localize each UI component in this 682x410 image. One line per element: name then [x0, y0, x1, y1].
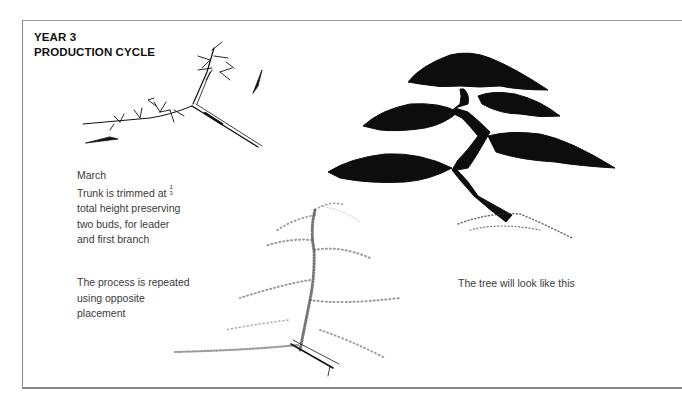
fraction-one-third: 13 [169, 184, 172, 196]
caption-line-trim: Trunk is trimmed at 13 [77, 184, 180, 202]
caption-line-buds: two buds, for leader [77, 217, 180, 233]
caption-line-height: total height preserving [77, 201, 180, 217]
caption-repeat-line1: The process is repeated [77, 275, 190, 291]
march-caption: March Trunk is trimmed at 13 total heigh… [77, 168, 180, 248]
caption-repeat-line2: using opposite [77, 291, 190, 307]
stippled-tree-illustration [175, 203, 400, 376]
mature-bonsai-illustration [328, 53, 615, 222]
result-caption: The tree will look like this [458, 276, 575, 292]
caption-line-branch: and first branch [77, 232, 180, 248]
repeat-caption: The process is repeated using opposite p… [77, 275, 190, 322]
trimmed-seedling-illustration [83, 42, 262, 147]
caption-month: March [77, 168, 180, 184]
bonsai-ground-shading [320, 206, 572, 238]
caption-repeat-line3: placement [77, 306, 190, 322]
